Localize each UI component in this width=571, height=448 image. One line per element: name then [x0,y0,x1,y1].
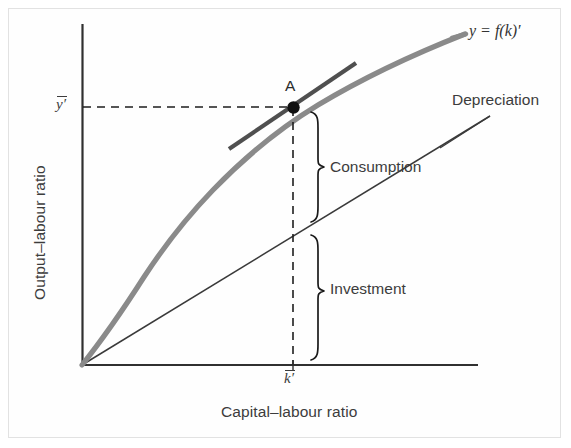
x-axis-title: Capital–labour ratio [221,404,357,420]
x-axis-tick-label: k′ [284,371,294,386]
depreciation-line [82,116,490,365]
consumption-label: Consumption [330,159,421,175]
depreciation-label-leader [440,116,490,148]
investment-label: Investment [330,281,406,297]
investment-bracket [311,235,324,360]
production-function-curve [82,34,465,365]
consumption-bracket [311,112,324,222]
curve-label-leader [452,34,466,38]
depreciation-label: Depreciation [452,92,539,108]
point-a-label: A [285,78,295,94]
x-axis-tick-label-text: k′ [284,370,294,386]
y-axis-tick-label: y′ [56,97,66,112]
point-a-marker [287,101,299,113]
production-function-label: y = f(k)′ [469,23,521,39]
y-axis-title: Output–labour ratio [32,165,48,300]
y-axis-tick-label-text: y′ [56,96,66,112]
figure-canvas: Output–labour ratio Capital–labour ratio… [0,0,571,448]
